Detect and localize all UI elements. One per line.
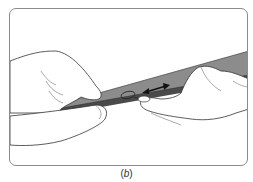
caption-close: ) (129, 168, 132, 179)
figure-caption: (b) (0, 168, 253, 179)
figure-frame (9, 8, 248, 166)
illustration (10, 9, 248, 166)
